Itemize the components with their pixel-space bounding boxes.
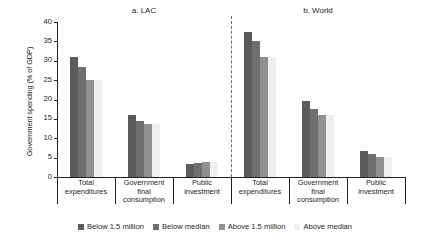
y-tick-mark xyxy=(54,80,57,81)
category-label: Government final consumption xyxy=(290,179,346,205)
bar xyxy=(194,163,202,177)
category-label: Total expenditures xyxy=(58,179,114,196)
bar xyxy=(186,164,194,177)
y-tick-label: 20 xyxy=(44,94,52,103)
bar xyxy=(368,154,376,177)
category-separator xyxy=(405,177,406,204)
bar xyxy=(360,151,368,177)
category-label: Total expenditures xyxy=(232,179,288,196)
bar xyxy=(318,115,326,177)
panel-title: b. World xyxy=(231,6,405,15)
bar xyxy=(136,121,144,177)
legend-label: Above median xyxy=(303,222,352,231)
legend-swatch-icon xyxy=(294,224,300,230)
bar xyxy=(78,67,86,177)
legend-item: Above 1.5 million xyxy=(219,222,286,231)
bar xyxy=(94,80,102,177)
figure: Government spending (% of GDP) 051015202… xyxy=(0,0,430,244)
y-tick-label: 0 xyxy=(48,172,52,181)
panel-divider xyxy=(231,16,232,177)
y-tick-mark xyxy=(54,138,57,139)
y-tick-mark xyxy=(54,61,57,62)
y-tick: 40 xyxy=(35,22,57,23)
bar xyxy=(244,32,252,177)
y-tick-mark xyxy=(54,158,57,159)
y-axis-line xyxy=(57,22,58,177)
y-tick-mark xyxy=(54,100,57,101)
bar xyxy=(252,41,260,177)
y-tick: 15 xyxy=(35,119,57,120)
y-tick-label: 40 xyxy=(44,17,52,26)
panel-title: a. LAC xyxy=(57,6,231,15)
bar xyxy=(310,109,318,177)
bar xyxy=(384,157,392,177)
legend-label: Below 1.5 million xyxy=(87,222,144,231)
y-tick: 0 xyxy=(35,177,57,178)
legend-label: Below median xyxy=(162,222,210,231)
y-tick: 35 xyxy=(35,41,57,42)
y-tick: 30 xyxy=(35,61,57,62)
bar xyxy=(268,57,276,177)
bar xyxy=(260,57,268,177)
bar xyxy=(152,124,160,177)
category-label: Government final consumption xyxy=(116,179,172,205)
bar xyxy=(202,162,210,177)
bar xyxy=(144,124,152,177)
legend-item: Below median xyxy=(153,222,210,231)
bar xyxy=(302,101,310,177)
y-tick-label: 10 xyxy=(44,133,52,142)
bar xyxy=(128,115,136,177)
legend: Below 1.5 millionBelow medianAbove 1.5 m… xyxy=(0,222,430,231)
y-tick-label: 30 xyxy=(44,55,52,64)
y-axis-title: Government spending (% of GDP) xyxy=(25,27,34,177)
plot-area: 0510152025303540 a. LACb. World Total ex… xyxy=(57,22,405,177)
bar xyxy=(326,115,334,177)
y-tick: 10 xyxy=(35,138,57,139)
legend-item: Below 1.5 million xyxy=(78,222,144,231)
category-label: Public investment xyxy=(174,179,230,196)
y-tick-label: 25 xyxy=(44,75,52,84)
legend-item: Above median xyxy=(294,222,352,231)
bar xyxy=(376,157,384,177)
legend-swatch-icon xyxy=(153,224,159,230)
y-tick: 25 xyxy=(35,80,57,81)
y-tick-label: 35 xyxy=(44,36,52,45)
bar xyxy=(86,80,94,177)
y-tick-mark xyxy=(54,119,57,120)
category-label: Public investment xyxy=(348,179,404,196)
legend-swatch-icon xyxy=(219,224,225,230)
legend-swatch-icon xyxy=(78,224,84,230)
y-tick: 20 xyxy=(35,100,57,101)
y-tick-label: 5 xyxy=(48,152,52,161)
legend-label: Above 1.5 million xyxy=(228,222,286,231)
y-tick: 5 xyxy=(35,158,57,159)
y-tick-mark xyxy=(54,41,57,42)
y-tick-label: 15 xyxy=(44,113,52,122)
bar xyxy=(210,162,218,177)
bar xyxy=(70,57,78,177)
y-tick-mark xyxy=(54,22,57,23)
